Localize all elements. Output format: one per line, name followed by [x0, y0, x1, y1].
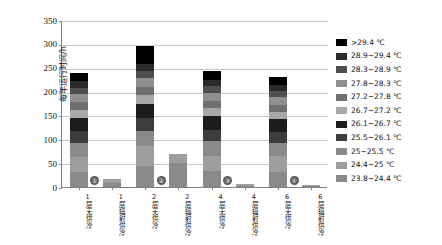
bar-segment[interactable] — [269, 172, 287, 187]
bar-segment[interactable] — [136, 71, 154, 78]
legend-item[interactable]: 26.7~27.2 ℃ — [336, 104, 440, 118]
legend-item[interactable]: 28.9~29.4 ℃ — [336, 50, 440, 64]
x-tick-mark — [212, 187, 213, 190]
y-tick-mark — [59, 140, 62, 141]
bar-segment[interactable] — [136, 166, 154, 187]
bar-segment[interactable] — [136, 46, 154, 64]
bar-segment[interactable] — [70, 81, 88, 88]
bar-segment[interactable] — [269, 156, 287, 171]
gridline — [62, 93, 328, 94]
x-tick-mark — [245, 187, 246, 190]
legend-item[interactable]: 26.1~26.7 ℃ — [336, 118, 440, 132]
legend-item[interactable]: >29.4 ℃ — [336, 36, 440, 50]
bar-segment[interactable] — [269, 105, 287, 112]
bar-segment[interactable] — [203, 108, 221, 116]
legend-item[interactable]: 24.4~25 ℃ — [336, 158, 440, 172]
bar-segment[interactable] — [269, 77, 287, 85]
bar-segment[interactable] — [70, 73, 88, 82]
legend-label: 27.8~28.3 ℃ — [351, 80, 402, 88]
legend-swatch — [336, 39, 347, 46]
y-tick-label: 0 — [53, 184, 58, 193]
stacked-bar[interactable] — [203, 71, 221, 187]
bar-segment[interactable] — [136, 104, 154, 118]
gridline — [62, 45, 328, 46]
bar-segment[interactable] — [269, 97, 287, 104]
y-tick-label: 250 — [44, 64, 58, 73]
legend-label: 28.3~28.9 ℃ — [351, 66, 402, 74]
bar-segment[interactable] — [70, 143, 88, 157]
chart-figure: 每年运行时间/h 050100150200250300350 ①②③④ 1层无供… — [0, 0, 442, 245]
bar-segment[interactable] — [70, 118, 88, 131]
stacked-bar[interactable] — [269, 77, 287, 187]
bar-segment[interactable] — [169, 163, 187, 187]
legend-item[interactable]: 27.2~27.8 ℃ — [336, 90, 440, 104]
stacked-bar[interactable] — [70, 73, 88, 187]
y-tick-label: 200 — [44, 88, 58, 97]
bar-segment[interactable] — [136, 87, 154, 95]
bar-segment[interactable] — [70, 172, 88, 187]
bar-segment[interactable] — [269, 112, 287, 120]
y-tick-label: 300 — [44, 40, 58, 49]
legend-label: 25~25.5 ℃ — [351, 148, 394, 156]
bar-annotation-marker: ④ — [290, 176, 299, 185]
y-tick-mark — [59, 188, 62, 189]
legend-swatch — [336, 162, 347, 169]
bar-annotation-marker: ① — [90, 176, 99, 185]
y-tick-label: 150 — [44, 112, 58, 121]
legend-item[interactable]: 25~25.5 ℃ — [336, 145, 440, 159]
bar-segment[interactable] — [203, 86, 221, 93]
gridline — [62, 116, 328, 117]
y-tick-label: 350 — [44, 17, 58, 26]
bar-segment[interactable] — [203, 130, 221, 141]
bar-segment[interactable] — [203, 171, 221, 187]
bar-segment[interactable] — [203, 93, 221, 101]
stacked-bar[interactable] — [169, 154, 187, 187]
bar-segment[interactable] — [136, 131, 154, 147]
legend-item[interactable]: 23.8~24.4 ℃ — [336, 172, 440, 186]
x-tick-mark — [112, 187, 113, 190]
bar-segment[interactable] — [136, 78, 154, 87]
legend-item[interactable]: 28.3~28.9 ℃ — [336, 63, 440, 77]
bar-segment[interactable] — [136, 118, 154, 130]
bar-segment[interactable] — [203, 156, 221, 172]
legend: >29.4 ℃28.9~29.4 ℃28.3~28.9 ℃27.8~28.3 ℃… — [336, 36, 440, 186]
bar-segment[interactable] — [269, 132, 287, 143]
y-tick-mark — [59, 116, 62, 117]
bar-segment[interactable] — [269, 119, 287, 131]
bar-segment[interactable] — [203, 71, 221, 81]
bar-segment[interactable] — [70, 94, 88, 102]
legend-item[interactable]: 27.8~28.3 ℃ — [336, 77, 440, 91]
legend-item[interactable]: 25.5~26.1 ℃ — [336, 131, 440, 145]
bar-segment[interactable] — [203, 101, 221, 109]
legend-label: >29.4 ℃ — [351, 39, 385, 47]
y-tick-mark — [59, 21, 62, 22]
bar-segment[interactable] — [70, 88, 88, 95]
legend-swatch — [336, 175, 347, 182]
bar-segment[interactable] — [203, 141, 221, 155]
y-axis-title: 每年运行时间/h — [59, 28, 69, 120]
bar-segment[interactable] — [269, 143, 287, 157]
legend-label: 26.1~26.7 ℃ — [351, 120, 402, 128]
bar-segment[interactable] — [136, 64, 154, 71]
bar-segment[interactable] — [70, 131, 88, 142]
bar-segment[interactable] — [203, 116, 221, 129]
bar-segment[interactable] — [70, 110, 88, 118]
x-tick-mark — [278, 187, 279, 190]
bar-annotation-marker: ③ — [223, 176, 232, 185]
bar-segment[interactable] — [169, 154, 187, 164]
bar-segment[interactable] — [136, 95, 154, 104]
legend-label: 28.9~29.4 ℃ — [351, 52, 402, 60]
y-tick-mark — [59, 45, 62, 46]
stacked-bar[interactable] — [103, 179, 121, 187]
legend-label: 23.8~24.4 ℃ — [351, 175, 402, 183]
x-axis-label: 4层辐射供冷 — [231, 193, 257, 241]
x-axis-label: 1层无供冷 — [65, 193, 91, 241]
legend-swatch — [336, 66, 347, 73]
stacked-bar[interactable] — [136, 46, 154, 187]
bar-segment[interactable] — [136, 146, 154, 165]
legend-label: 27.2~27.8 ℃ — [351, 93, 402, 101]
legend-label: 24.4~25 ℃ — [351, 161, 394, 169]
legend-swatch — [336, 134, 347, 141]
bar-segment[interactable] — [70, 157, 88, 172]
bar-segment[interactable] — [70, 102, 88, 110]
